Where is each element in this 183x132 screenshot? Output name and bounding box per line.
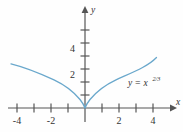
x-tick-label-2: 2 bbox=[117, 115, 122, 126]
curve-equation-exponent: 2/3 bbox=[153, 75, 161, 82]
plot-svg: -4 -2 2 4 2 4 x y y = x 2/3 bbox=[0, 0, 183, 132]
y-axis-label: y bbox=[90, 5, 96, 15]
x-tick-label-4: 4 bbox=[151, 115, 156, 126]
graph-figure: -4 -2 2 4 2 4 x y y = x 2/3 bbox=[0, 0, 183, 132]
y-tick-label-2: 2 bbox=[70, 69, 75, 80]
curve-equation-label: y = x 2/3 bbox=[127, 75, 160, 89]
x-tick-label--4: -4 bbox=[13, 115, 21, 126]
x-axis-label: x bbox=[175, 97, 181, 107]
x-axis bbox=[8, 105, 177, 112]
y-tick-label-4: 4 bbox=[70, 43, 75, 54]
curve-equation-base: y = x bbox=[127, 78, 148, 88]
x-tick-label--2: -2 bbox=[47, 115, 55, 126]
y-axis-arrow-icon bbox=[82, 6, 89, 13]
y-axis bbox=[82, 6, 89, 122]
